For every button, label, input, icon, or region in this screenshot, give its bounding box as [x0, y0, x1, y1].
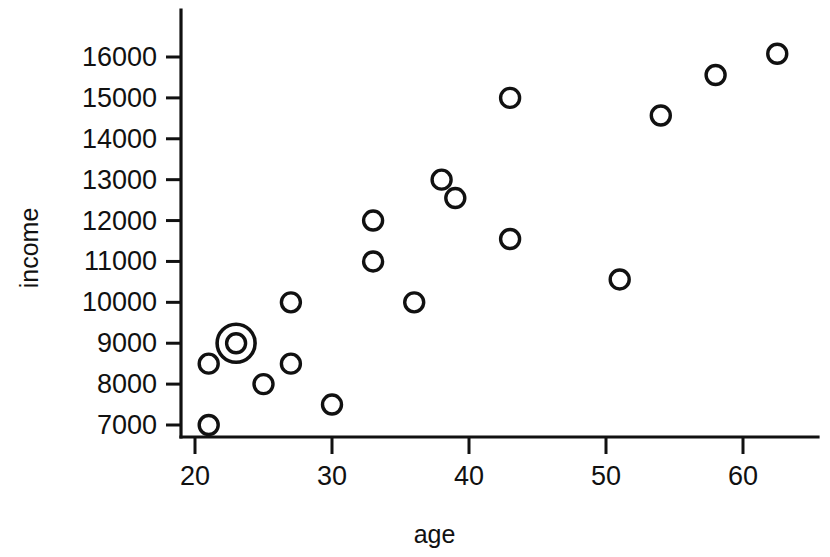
data-point[interactable]	[501, 229, 520, 248]
data-point-marker	[432, 170, 451, 189]
x-axis-tick-label: 60	[728, 461, 758, 491]
data-point[interactable]	[610, 270, 629, 289]
data-point[interactable]	[651, 106, 670, 125]
data-point-marker	[610, 270, 629, 289]
data-point[interactable]	[254, 375, 273, 394]
data-point[interactable]	[199, 416, 218, 435]
x-axis-tick-label: 40	[454, 461, 484, 491]
data-point-marker	[768, 44, 787, 63]
data-point-marker	[364, 252, 383, 271]
x-axis-tick-label: 20	[180, 461, 210, 491]
data-point-marker	[254, 375, 273, 394]
data-point[interactable]	[405, 293, 424, 312]
y-axis-tick-label: 14000	[82, 124, 157, 154]
data-point-marker	[199, 354, 218, 373]
data-point[interactable]	[364, 252, 383, 271]
data-point[interactable]	[364, 211, 383, 230]
y-axis-tick-label: 16000	[82, 42, 157, 72]
y-axis-title: income	[15, 208, 43, 289]
data-point[interactable]	[706, 65, 725, 84]
y-axis-tick-label: 15000	[82, 83, 157, 113]
data-point[interactable]	[199, 354, 218, 373]
x-axis-tick-label: 30	[317, 461, 347, 491]
scatter-plot-figure: 7000800090001000011000120001300014000150…	[0, 0, 830, 557]
y-axis-tick-label: 13000	[82, 165, 157, 195]
data-point-marker	[501, 88, 520, 107]
data-point-marker	[364, 211, 383, 230]
x-axis-title: age	[414, 520, 456, 548]
data-points-layer	[199, 44, 787, 434]
data-point-highlighted[interactable]	[217, 324, 255, 362]
y-axis-tick-label: 9000	[97, 328, 157, 358]
data-point-marker	[227, 334, 246, 353]
plot-canvas: 7000800090001000011000120001300014000150…	[0, 0, 830, 557]
axis-titles-layer: ageincome	[15, 208, 455, 548]
y-axis-tick-label: 11000	[84, 246, 157, 276]
data-point[interactable]	[768, 44, 787, 63]
data-point[interactable]	[281, 354, 300, 373]
data-point-marker	[446, 189, 465, 208]
x-axis: 2030405060	[180, 437, 818, 491]
data-point-selection-ring	[217, 324, 255, 362]
y-axis: 7000800090001000011000120001300014000150…	[82, 10, 181, 440]
data-point[interactable]	[446, 189, 465, 208]
data-point-marker	[281, 293, 300, 312]
x-axis-tick-label: 50	[591, 461, 621, 491]
data-point[interactable]	[281, 293, 300, 312]
y-axis-tick-label: 8000	[97, 369, 157, 399]
data-point-marker	[281, 354, 300, 373]
data-point[interactable]	[432, 170, 451, 189]
data-point[interactable]	[323, 395, 342, 414]
data-point-marker	[199, 416, 218, 435]
data-point[interactable]	[501, 88, 520, 107]
data-point-marker	[651, 106, 670, 125]
y-axis-tick-label: 10000	[82, 287, 157, 317]
data-point-marker	[323, 395, 342, 414]
data-point-marker	[405, 293, 424, 312]
data-point-marker	[706, 65, 725, 84]
y-axis-tick-label: 12000	[82, 206, 157, 236]
y-axis-tick-label: 7000	[97, 410, 157, 440]
data-point-marker	[501, 229, 520, 248]
